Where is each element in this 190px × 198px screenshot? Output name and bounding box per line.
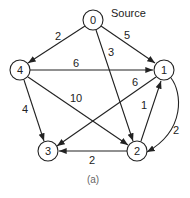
weight-1-2: 2	[173, 124, 179, 136]
weight-2-3: 2	[89, 154, 95, 166]
edge-4-2	[28, 77, 128, 145]
edge-1-3	[57, 77, 156, 146]
node-3: 3	[38, 141, 58, 161]
weight-0-4: 2	[55, 30, 61, 42]
figure-caption: (a)	[87, 174, 99, 185]
svg-text:3: 3	[45, 145, 51, 157]
svg-text:4: 4	[17, 64, 23, 76]
edge-1-2	[147, 78, 179, 152]
graph-diagram: 2 5 3 6 10 4 6 1 2 2 0 1 2 3 4 Source (a…	[0, 0, 190, 198]
svg-text:2: 2	[134, 145, 140, 157]
weight-4-2: 10	[70, 92, 82, 104]
node-2: 2	[127, 141, 147, 161]
node-1: 1	[154, 60, 174, 80]
weight-4-3: 4	[22, 103, 28, 115]
svg-text:1: 1	[161, 64, 167, 76]
node-0: 0	[83, 10, 103, 30]
edge-0-2	[96, 30, 133, 141]
node-4: 4	[10, 60, 30, 80]
edge-2-1	[141, 81, 161, 141]
source-label: Source	[111, 7, 146, 19]
weight-0-2: 3	[108, 46, 114, 58]
weight-0-1: 5	[124, 29, 130, 41]
weight-2-1: 1	[141, 99, 147, 111]
svg-text:0: 0	[90, 14, 96, 26]
weight-1-3: 6	[132, 76, 138, 88]
weight-4-1: 6	[73, 57, 79, 69]
